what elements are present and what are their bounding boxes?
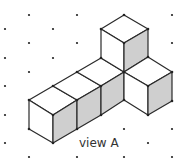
cube-solid — [29, 15, 172, 143]
view-caption: view A — [79, 136, 119, 150]
